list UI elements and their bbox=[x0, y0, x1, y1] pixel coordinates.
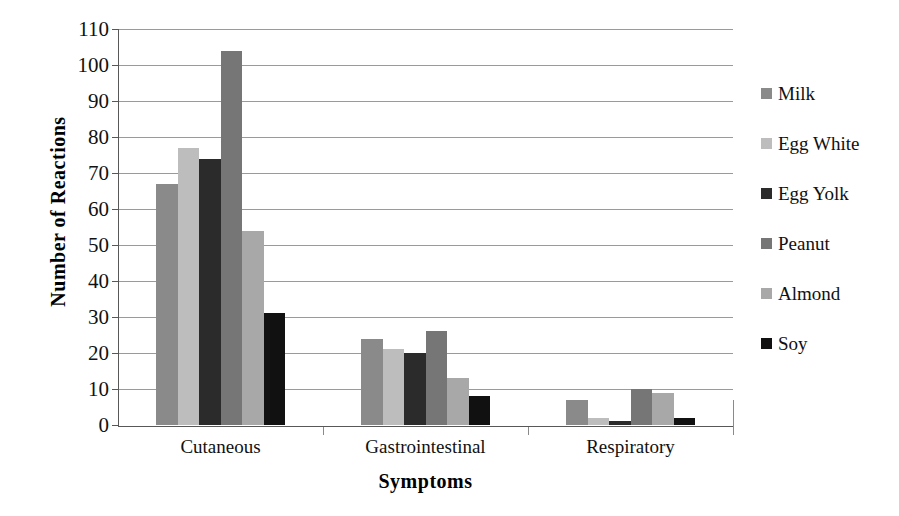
y-axis-tick bbox=[112, 353, 119, 354]
bar bbox=[361, 339, 383, 425]
y-axis-tick-label: 80 bbox=[88, 127, 109, 148]
y-axis-tick-label: 110 bbox=[78, 19, 109, 40]
bar bbox=[566, 400, 588, 425]
bar bbox=[588, 418, 610, 425]
plot-right-edge bbox=[733, 400, 734, 427]
x-axis-title: Symptoms bbox=[118, 470, 733, 493]
legend-swatch-icon bbox=[761, 288, 772, 299]
y-axis-tick-label: 90 bbox=[88, 91, 109, 112]
legend-item[interactable]: Egg Yolk bbox=[761, 184, 849, 203]
legend-label: Egg Yolk bbox=[778, 184, 849, 203]
y-axis-tick bbox=[112, 317, 119, 318]
bar bbox=[426, 331, 448, 425]
legend-item[interactable]: Soy bbox=[761, 334, 808, 353]
bar bbox=[178, 148, 200, 425]
legend-label: Egg White bbox=[778, 134, 859, 153]
y-axis-tick bbox=[112, 389, 119, 390]
bar bbox=[404, 353, 426, 425]
legend-item[interactable]: Peanut bbox=[761, 234, 830, 253]
y-axis-tick bbox=[112, 281, 119, 282]
bar bbox=[199, 159, 221, 425]
legend-item[interactable]: Milk bbox=[761, 84, 815, 103]
y-axis-tick-label: 20 bbox=[88, 343, 109, 364]
y-axis-tick-label: 100 bbox=[78, 55, 110, 76]
y-axis-tick-label: 60 bbox=[88, 199, 109, 220]
y-axis-tick bbox=[112, 209, 119, 210]
legend-swatch-icon bbox=[761, 188, 772, 199]
y-axis-tick-label: 30 bbox=[88, 307, 109, 328]
y-axis-tick bbox=[112, 425, 119, 426]
plot-area: 0102030405060708090100110 bbox=[118, 29, 733, 425]
y-axis-title: Number of Reactions bbox=[47, 62, 70, 362]
bar bbox=[674, 418, 696, 425]
legend-swatch-icon bbox=[761, 338, 772, 349]
x-axis-tick bbox=[733, 427, 734, 435]
bar bbox=[609, 421, 631, 425]
legend-item[interactable]: Egg White bbox=[761, 134, 859, 153]
x-axis-tick-label: Cutaneous bbox=[101, 436, 341, 458]
y-axis-tick-label: 50 bbox=[88, 235, 109, 256]
bar bbox=[242, 231, 264, 425]
bar-group bbox=[361, 29, 490, 425]
y-axis-tick bbox=[112, 245, 119, 246]
x-axis-tick bbox=[528, 427, 529, 435]
bar bbox=[264, 313, 286, 425]
y-axis-tick bbox=[112, 29, 119, 30]
bar-chart: Number of Reactions 01020304050607080901… bbox=[0, 0, 899, 516]
x-axis-tick-label: Respiratory bbox=[511, 436, 751, 458]
y-axis-tick bbox=[112, 101, 119, 102]
x-axis-tick-label: Gastrointestinal bbox=[306, 436, 546, 458]
legend-label: Almond bbox=[778, 284, 840, 303]
bar bbox=[469, 396, 491, 425]
y-axis-tick-label: 10 bbox=[88, 379, 109, 400]
x-axis-tick bbox=[323, 427, 324, 435]
y-axis-tick bbox=[112, 137, 119, 138]
bar bbox=[652, 393, 674, 425]
legend-label: Soy bbox=[778, 334, 808, 353]
bar bbox=[631, 389, 653, 425]
y-axis-tick-label: 70 bbox=[88, 163, 109, 184]
bar bbox=[447, 378, 469, 425]
bar bbox=[221, 51, 243, 425]
bar-group bbox=[156, 29, 285, 425]
y-axis-tick-label: 0 bbox=[99, 415, 110, 436]
legend-label: Milk bbox=[778, 84, 815, 103]
bar bbox=[156, 184, 178, 425]
bar-group bbox=[566, 29, 695, 425]
legend-item[interactable]: Almond bbox=[761, 284, 840, 303]
y-axis-tick bbox=[112, 173, 119, 174]
legend-swatch-icon bbox=[761, 238, 772, 249]
legend-label: Peanut bbox=[778, 234, 830, 253]
bar bbox=[383, 349, 405, 425]
y-axis-tick bbox=[112, 65, 119, 66]
y-axis-tick-label: 40 bbox=[88, 271, 109, 292]
legend-swatch-icon bbox=[761, 88, 772, 99]
x-axis-line bbox=[118, 426, 734, 427]
legend-swatch-icon bbox=[761, 138, 772, 149]
